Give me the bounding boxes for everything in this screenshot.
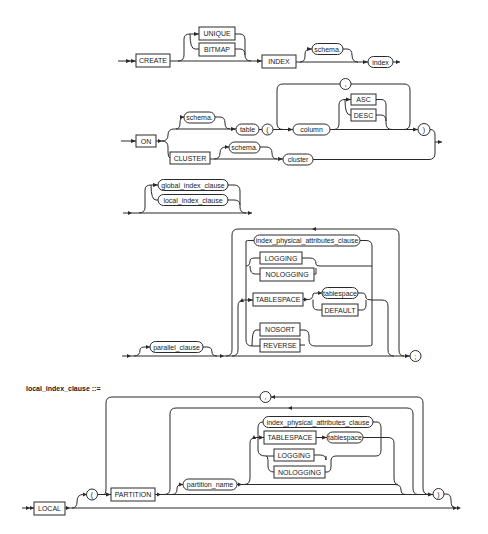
logging-label: LOGGING xyxy=(278,452,311,459)
semicolon-label: ; xyxy=(415,353,417,360)
tablespace-name-label: tablespace xyxy=(328,434,362,442)
index-name-label: index xyxy=(372,59,389,66)
asc-label: ASC xyxy=(356,96,370,103)
table-label: table xyxy=(240,126,255,133)
local-index-clause-label: local_index_clause xyxy=(163,197,222,205)
cluster-label: cluster xyxy=(288,156,309,163)
cluster-keyword-label: CLUSTER xyxy=(174,155,207,162)
local-index-clause-title: local_index_clause ::= xyxy=(26,385,101,392)
index-keyword-label: INDEX xyxy=(268,58,290,65)
comma-label: , xyxy=(265,393,267,400)
index-physical-attributes-clause-label: index_physical_attributes_clause xyxy=(256,237,359,245)
tablespace-name-label: tablespace xyxy=(323,290,357,298)
schema-label: schema. xyxy=(314,46,341,53)
partition-name-label: partition_name xyxy=(187,481,233,489)
attributes-row: parallel_clause index_physical_attribute… xyxy=(122,227,421,362)
on-clause-row: ON schema. table ( , column xyxy=(121,79,442,166)
create-index-row: CREATE UNIQUE BITMAP INDEX schema. index xyxy=(118,27,400,68)
parallel-clause-label: parallel_clause xyxy=(153,344,200,352)
bitmap-label: BITMAP xyxy=(204,46,230,53)
tablespace-keyword-label: TABLESPACE xyxy=(256,296,301,303)
global-index-clause-label: global_index_clause xyxy=(161,182,225,190)
unique-label: UNIQUE xyxy=(203,30,231,38)
reverse-label: REVERSE xyxy=(263,342,297,349)
comma-label: , xyxy=(345,80,347,87)
tablespace-keyword-label: TABLESPACE xyxy=(268,434,313,441)
nologging-label: NOLOGGING xyxy=(278,469,321,476)
nologging-label: NOLOGGING xyxy=(265,271,308,278)
rparen-label: ) xyxy=(423,126,425,134)
default-label: DEFAULT xyxy=(325,307,357,314)
create-label: CREATE xyxy=(139,57,167,64)
index-physical-attributes-clause-label: index_physical_attributes_clause xyxy=(267,419,370,427)
nosort-label: NOSORT xyxy=(265,326,296,333)
syntax-diagram: CREATE UNIQUE BITMAP INDEX schema. index xyxy=(0,0,488,534)
on-label: ON xyxy=(141,138,152,145)
desc-label: DESC xyxy=(354,112,373,119)
rparen-label: ) xyxy=(437,491,439,499)
index-clause-row: global_index_clause local_index_clause xyxy=(123,180,252,216)
local-index-clause-diagram: LOCAL ( , PARTITION partition_name xyxy=(22,392,461,516)
schema-label: schema. xyxy=(231,144,258,151)
schema-label: schema. xyxy=(186,114,213,121)
logging-label: LOGGING xyxy=(265,255,298,262)
local-label: LOCAL xyxy=(38,505,61,512)
partition-label: PARTITION xyxy=(115,491,152,498)
column-label: column xyxy=(300,126,323,133)
